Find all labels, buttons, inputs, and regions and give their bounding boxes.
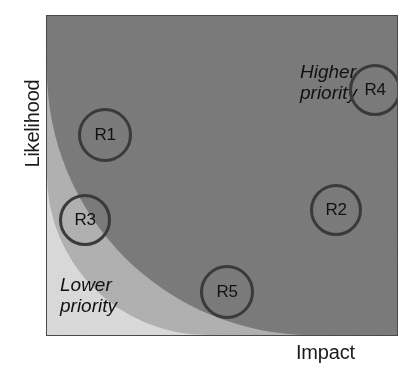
x-axis-label-impact: Impact — [296, 341, 355, 364]
risk-marker-label-r1: R1 — [94, 125, 115, 145]
risk-marker-r4[interactable]: R4 — [349, 64, 397, 116]
risk-marker-label-r4: R4 — [364, 80, 385, 100]
risk-prioritization-matrix: Likelihood — [0, 0, 415, 374]
risk-marker-r1[interactable]: R1 — [78, 108, 132, 162]
risk-marker-r5[interactable]: R5 — [200, 265, 254, 319]
zone-caption-lower-priority: Lower priority — [60, 274, 117, 316]
risk-marker-label-r3: R3 — [74, 210, 95, 230]
zone-caption-higher-priority: Higher priority — [300, 61, 357, 103]
risk-marker-r2[interactable]: R2 — [310, 184, 362, 236]
risk-marker-label-r2: R2 — [325, 200, 346, 220]
matrix-plot-area: Higher priority Lower priority R1 R2 R3 … — [47, 16, 397, 335]
risk-marker-r3[interactable]: R3 — [59, 194, 111, 246]
risk-marker-label-r5: R5 — [216, 282, 237, 302]
y-axis-label-likelihood: Likelihood — [21, 69, 44, 179]
